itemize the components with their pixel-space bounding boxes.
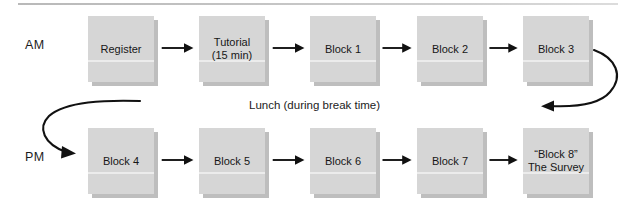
process-box-label: Block 2 (432, 43, 468, 56)
process-box-block-1[interactable]: Block 1 (310, 16, 376, 82)
process-flow-diagram: AM Register Tutorial (15 min) Block 1 Bl… (0, 0, 626, 218)
process-box-block-2[interactable]: Block 2 (417, 16, 483, 82)
process-box-block-4[interactable]: Block 4 (88, 128, 154, 194)
period-label-am: AM (25, 38, 44, 52)
curved-arrow-block-3-to-lunch-icon (524, 48, 626, 114)
process-box-label: Block 4 (103, 155, 139, 168)
process-box-label: Block 1 (325, 43, 361, 56)
arrow-block-5-to-block-6-icon (270, 154, 308, 166)
process-box-block-7[interactable]: Block 7 (417, 128, 483, 194)
process-box-label: Block 5 (214, 155, 250, 168)
arrow-block-4-to-block-5-icon (159, 154, 197, 166)
process-box-label: Block 6 (325, 155, 361, 168)
process-box-register[interactable]: Register (88, 16, 154, 82)
arrow-block-6-to-block-7-icon (380, 154, 415, 166)
process-box-label: Block 7 (432, 155, 468, 168)
arrow-tutorial-to-block-1-icon (270, 42, 308, 54)
process-box-label: Register (101, 43, 142, 56)
process-box-label: “Block 8” The Survey (528, 148, 584, 174)
process-box-block-6[interactable]: Block 6 (310, 128, 376, 194)
process-box-label: Block 3 (538, 43, 574, 56)
process-box-tutorial[interactable]: Tutorial (15 min) (199, 16, 265, 82)
process-box-block-8-survey[interactable]: “Block 8” The Survey (523, 128, 589, 194)
arrow-block-7-to-block-8-icon (487, 154, 521, 166)
process-box-label: Tutorial (15 min) (212, 36, 252, 62)
process-box-block-5[interactable]: Block 5 (199, 128, 265, 194)
arrow-block-1-to-block-2-icon (380, 42, 415, 54)
arrow-register-to-tutorial-icon (159, 42, 197, 54)
break-note-label: Lunch (during break time) (249, 99, 380, 111)
top-rule-divider (18, 3, 618, 5)
arrow-block-2-to-block-3-icon (487, 42, 521, 54)
